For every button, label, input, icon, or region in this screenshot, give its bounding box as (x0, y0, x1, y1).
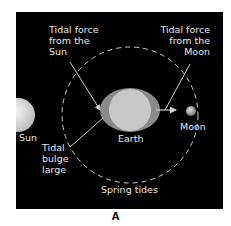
sun-icon (1, 98, 35, 132)
bulge-pointer (70, 118, 103, 147)
sun-force-pointer (70, 62, 100, 110)
label-sun-force: Tidal force from the Sun (49, 24, 99, 57)
figure-caption: A (0, 211, 231, 222)
label-sun: Sun (19, 132, 37, 143)
moon-force-pointer (165, 64, 190, 110)
label-moon-force: Tidal force from the Moon (160, 24, 210, 57)
label-bulge: Tidal bulge large (42, 142, 69, 175)
moon-icon (186, 106, 196, 116)
label-moon: Moon (180, 121, 206, 132)
label-earth: Earth (118, 133, 143, 144)
earth-icon (109, 89, 151, 131)
diagram-title: Spring tides (101, 184, 158, 195)
